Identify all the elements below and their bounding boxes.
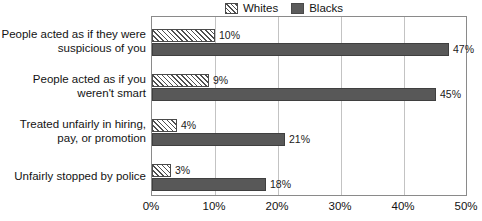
category-label-line: Unfairly stopped by police: [0, 170, 146, 184]
bar-blacks-hiring: [152, 133, 285, 146]
bar-group-stopped-by-police: 3% 18%: [152, 152, 466, 197]
x-tick-50: 50%: [454, 199, 477, 213]
bar-blacks-not-smart: [152, 88, 436, 101]
bar-whites-hiring: [152, 119, 177, 132]
bar-chart: Whites Blacks People acted as if they we…: [0, 0, 482, 221]
category-label-suspicious: People acted as if they were suspicious …: [0, 28, 146, 55]
bar-value-whites-police: 3%: [171, 164, 190, 177]
category-label-hiring-pay-promotion: Treated unfairly in hiring, pay, or prom…: [0, 118, 146, 145]
bar-group-hiring-pay-promotion: 4% 21%: [152, 107, 466, 152]
category-label-line: suspicious of you: [0, 42, 146, 56]
category-label-stopped-by-police: Unfairly stopped by police: [0, 170, 146, 184]
x-axis-tick-labels: 0% 10% 20% 30% 40% 50%: [151, 199, 467, 215]
category-label-line: Treated unfairly in hiring,: [0, 118, 146, 132]
legend-entry-blacks: Blacks: [291, 2, 343, 14]
category-axis-labels: People acted as if they were suspicious …: [0, 16, 148, 196]
category-label-line: weren't smart: [0, 87, 146, 101]
bar-group-not-smart: 9% 45%: [152, 62, 466, 107]
bar-value-whites-suspicious: 10%: [215, 29, 240, 42]
bar-value-blacks-not-smart: 45%: [436, 88, 461, 101]
category-label-not-smart: People acted as if you weren't smart: [0, 73, 146, 100]
x-tick-30: 30%: [328, 199, 351, 213]
bar-whites-not-smart: [152, 74, 209, 87]
x-tick-10: 10%: [202, 199, 225, 213]
bar-blacks-suspicious: [152, 43, 449, 56]
category-label-line: People acted as if they were: [0, 28, 146, 42]
x-tick-40: 40%: [391, 199, 414, 213]
chart-legend: Whites Blacks: [225, 0, 343, 16]
category-label-line: People acted as if you: [0, 73, 146, 87]
category-label-line: pay, or promotion: [0, 132, 146, 146]
legend-entry-whites: Whites: [225, 2, 278, 14]
bar-value-blacks-hiring: 21%: [285, 133, 310, 146]
bar-value-whites-not-smart: 9%: [209, 74, 228, 87]
bar-value-blacks-suspicious: 47%: [449, 43, 474, 56]
legend-label-blacks: Blacks: [309, 2, 343, 14]
legend-swatch-blacks-icon: [291, 3, 304, 14]
x-tick-20: 20%: [265, 199, 288, 213]
legend-swatch-whites-icon: [225, 3, 238, 14]
bar-blacks-police: [152, 178, 266, 191]
bar-group-suspicious: 10% 47%: [152, 17, 466, 62]
bar-whites-suspicious: [152, 29, 215, 42]
bar-whites-police: [152, 164, 171, 177]
bar-value-blacks-police: 18%: [266, 178, 291, 191]
plot-area: 10% 47% 9% 45% 4% 21% 3% 18%: [151, 16, 467, 196]
bar-value-whites-hiring: 4%: [177, 119, 196, 132]
legend-label-whites: Whites: [243, 2, 278, 14]
x-tick-0: 0%: [143, 199, 160, 213]
